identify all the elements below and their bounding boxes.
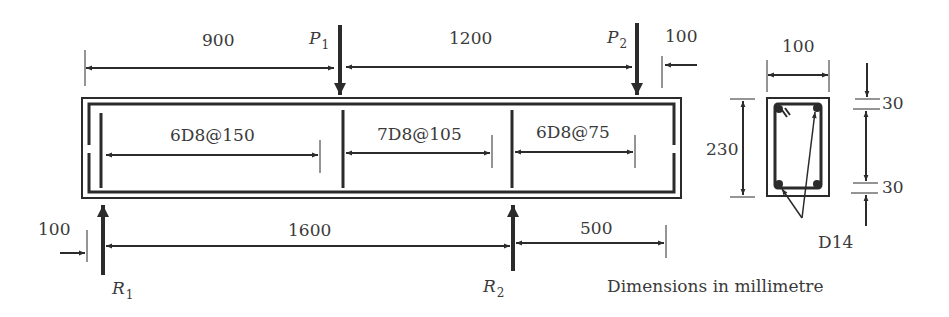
cover-top-label: 30 xyxy=(882,95,904,112)
bar-size-label: D14 xyxy=(818,234,853,251)
dim-label-500: 500 xyxy=(580,220,612,237)
load-p1-label: P1 xyxy=(309,30,329,47)
dim-label-100-top: 100 xyxy=(665,28,697,45)
dim-label-1200: 1200 xyxy=(449,30,492,47)
units-note: Dimensions in millimetre xyxy=(607,278,824,295)
longitudinal-reinforcement xyxy=(89,104,674,192)
stirrup-zone-label-3: 6D8@75 xyxy=(536,124,610,141)
reaction-r2-label: R2 xyxy=(483,278,504,295)
reaction-r1-label: R1 xyxy=(112,280,133,297)
load-p2-label: P2 xyxy=(607,29,627,46)
dim-label-1600: 1600 xyxy=(288,222,331,239)
beam-outline xyxy=(82,98,681,198)
dim-label-900: 900 xyxy=(202,32,234,49)
cover-bottom-label: 30 xyxy=(882,179,904,196)
dim-label-100-bottom: 100 xyxy=(38,221,70,238)
section-width-label: 100 xyxy=(782,38,814,55)
cross-section xyxy=(730,60,880,226)
stirrup-zone-label-2: 7D8@105 xyxy=(377,126,462,143)
stirrup-zone-label-1: 6D8@150 xyxy=(170,127,255,144)
section-height-label: 230 xyxy=(706,141,738,158)
